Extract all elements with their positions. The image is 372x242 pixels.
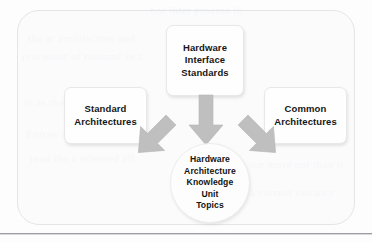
node-hardware-architecture-knowledge-unit-topics[interactable]: HardwareArchitectureKnowledgeUnitTopics — [170, 143, 250, 223]
scanned-page: nor inter process in the ar architecture… — [0, 0, 372, 242]
page-divider-rule-shadow — [0, 234, 372, 235]
diagram-container: HardwareInterfaceStandards StandardArchi… — [17, 10, 355, 225]
node-label: HardwareInterfaceStandards — [181, 42, 228, 80]
arrow-down-icon — [186, 95, 226, 147]
node-label: HardwareArchitectureKnowledgeUnitTopics — [184, 154, 236, 211]
node-hardware-interface-standards[interactable]: HardwareInterfaceStandards — [166, 25, 244, 96]
arrow-down-right-icon — [128, 111, 180, 163]
arrow-down-left-icon — [234, 111, 286, 163]
